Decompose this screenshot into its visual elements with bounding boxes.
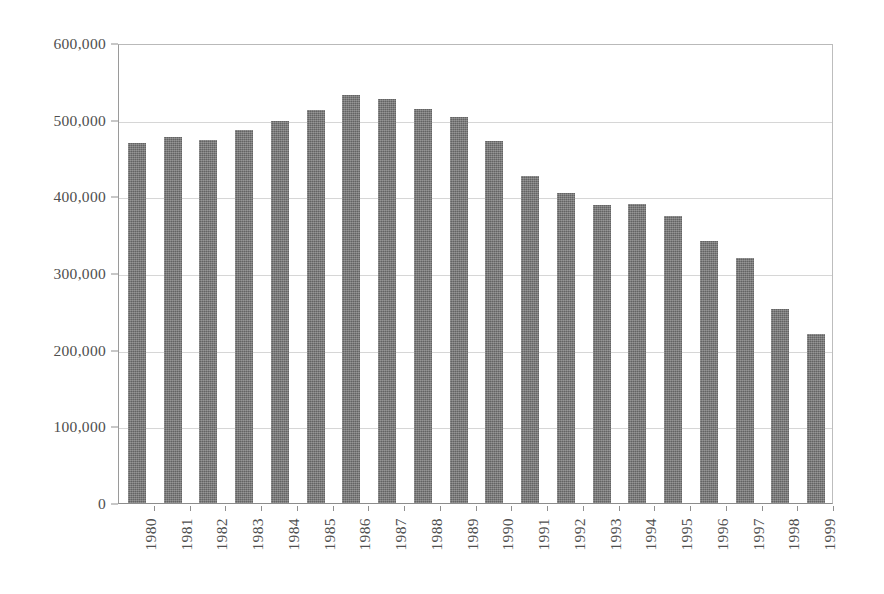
y-axis-tick-mark [111, 350, 118, 351]
bar [271, 121, 289, 503]
x-axis-tick-label: 1993 [607, 518, 625, 551]
x-axis-tick-label: 1992 [571, 518, 589, 551]
y-axis-tick-mark [111, 197, 118, 198]
bar [771, 309, 789, 503]
y-axis-tick-label: 500,000 [54, 112, 106, 130]
bar [199, 140, 217, 503]
x-axis-tick-mark [833, 506, 834, 511]
bar [700, 241, 718, 503]
bar-chart-figure: 0100,000200,000300,000400,000500,000600,… [0, 0, 884, 594]
bar [485, 141, 503, 503]
x-axis-tick-mark [440, 506, 441, 511]
x-axis-tick-label: 1994 [642, 518, 660, 551]
x-axis-tick-mark [476, 506, 477, 511]
y-axis-tick-label: 200,000 [54, 342, 106, 360]
bar [450, 117, 468, 503]
x-axis-tick-mark [619, 506, 620, 511]
y-axis-tick-mark [111, 427, 118, 428]
x-axis-tick-mark [261, 506, 262, 511]
x-axis-tick-mark [368, 506, 369, 511]
y-axis: 0100,000200,000300,000400,000500,000600,… [0, 0, 118, 594]
x-axis-tick-mark [583, 506, 584, 511]
x-axis-tick-label: 1982 [213, 518, 231, 551]
y-axis-tick-label: 100,000 [54, 418, 106, 436]
x-axis-tick-label: 1981 [178, 518, 196, 551]
bar [664, 216, 682, 504]
x-axis-tick-mark [297, 506, 298, 511]
y-axis-tick-label: 300,000 [54, 265, 106, 283]
y-axis-tick-label: 400,000 [54, 188, 106, 206]
y-axis-tick-mark [111, 44, 118, 45]
x-axis-tick-mark [547, 506, 548, 511]
bar [128, 143, 146, 503]
x-axis-tick-label: 1989 [464, 518, 482, 551]
x-axis-tick-mark [690, 506, 691, 511]
bar [557, 193, 575, 504]
bar [807, 334, 825, 503]
x-axis: 1980198119821983198419851986198719881989… [118, 506, 833, 594]
x-axis-tick-mark [225, 506, 226, 511]
y-axis-tick-label: 600,000 [54, 35, 106, 53]
x-axis-tick-label: 1983 [249, 518, 267, 551]
x-axis-tick-label: 1997 [750, 518, 768, 551]
x-axis-tick-label: 1999 [821, 518, 839, 551]
bar [521, 176, 539, 503]
x-axis-tick-mark [404, 506, 405, 511]
x-axis-tick-mark [333, 506, 334, 511]
x-axis-tick-label: 1990 [499, 518, 517, 551]
x-axis-tick-mark [797, 506, 798, 511]
x-axis-tick-label: 1986 [356, 518, 374, 551]
x-axis-tick-mark [654, 506, 655, 511]
bar [414, 109, 432, 503]
y-axis-tick-mark [111, 504, 118, 505]
x-axis-tick-label: 1984 [285, 518, 303, 551]
x-axis-tick-label: 1998 [785, 518, 803, 551]
y-axis-tick-label: 0 [98, 495, 106, 513]
x-axis-tick-label: 1980 [142, 518, 160, 551]
bar-series [119, 45, 832, 503]
bar [736, 258, 754, 503]
x-axis-tick-mark [511, 506, 512, 511]
x-axis-tick-label: 1987 [392, 518, 410, 551]
bar [342, 95, 360, 503]
x-axis-tick-label: 1996 [714, 518, 732, 551]
y-axis-tick-mark [111, 274, 118, 275]
bar [307, 110, 325, 503]
x-axis-tick-mark [762, 506, 763, 511]
bar [235, 130, 253, 503]
x-axis-tick-label: 1995 [678, 518, 696, 551]
bar [378, 99, 396, 503]
x-axis-tick-label: 1988 [428, 518, 446, 551]
x-axis-tick-mark [190, 506, 191, 511]
bar [628, 204, 646, 503]
bar [164, 137, 182, 503]
x-axis-tick-label: 1991 [535, 518, 553, 551]
bar [593, 205, 611, 503]
x-axis-tick-mark [726, 506, 727, 511]
x-axis-tick-label: 1985 [321, 518, 339, 551]
y-axis-tick-mark [111, 120, 118, 121]
x-axis-tick-mark [154, 506, 155, 511]
plot-area [118, 44, 833, 504]
